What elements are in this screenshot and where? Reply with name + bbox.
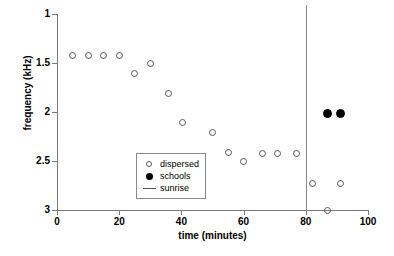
x-tick-label: 40	[176, 217, 187, 227]
y-tick-label: 2.5	[36, 156, 50, 166]
y-tick-label: 1	[44, 9, 50, 19]
x-tick-label: 80	[300, 217, 311, 227]
line-glyph	[143, 188, 156, 189]
y-tick	[52, 14, 57, 15]
y-axis-title: frequency (kHz)	[23, 23, 33, 163]
data-point-dispersed	[69, 52, 76, 59]
x-tick-label: 60	[238, 217, 249, 227]
x-tick-label: 20	[114, 217, 125, 227]
data-point-dispersed	[116, 52, 123, 59]
legend-label: schools	[157, 172, 191, 181]
data-point-dispersed	[179, 119, 186, 126]
data-point-dispersed	[225, 149, 232, 156]
y-tick-label: 2	[44, 107, 50, 117]
data-point-dispersed	[209, 129, 216, 136]
data-point-dispersed	[274, 150, 281, 157]
x-tick	[119, 210, 120, 215]
data-point-dispersed	[100, 52, 107, 59]
x-tick-label: 0	[54, 217, 60, 227]
legend-label: dispersed	[157, 160, 199, 169]
data-point-dispersed	[337, 180, 344, 187]
x-tick	[181, 210, 182, 215]
legend-item-schools: schools	[141, 170, 199, 182]
scatter-chart-figure: 11.522.53 020406080100 dispersedschoolss…	[0, 0, 394, 256]
x-axis-title: time (minutes)	[57, 231, 368, 241]
y-tick-label: 3	[44, 205, 50, 215]
open-circle-glyph	[146, 161, 152, 167]
y-axis-line	[57, 14, 58, 210]
filled-circle-icon	[141, 173, 157, 180]
data-point-dispersed	[324, 207, 331, 214]
legend-label: sunrise	[157, 184, 189, 193]
data-point-dispersed	[259, 150, 266, 157]
x-axis-line	[57, 210, 368, 211]
y-tick-label: 1.5	[36, 58, 50, 68]
y-tick	[52, 63, 57, 64]
data-point-schools	[323, 109, 332, 118]
data-point-dispersed	[309, 180, 316, 187]
legend-item-sunrise: sunrise	[141, 182, 199, 194]
plot-area: 11.522.53 020406080100 dispersedschoolss…	[57, 14, 368, 210]
data-point-dispersed	[240, 158, 247, 165]
x-tick	[368, 210, 369, 215]
data-point-dispersed	[131, 70, 138, 77]
x-tick-label: 100	[360, 217, 377, 227]
open-circle-icon	[141, 161, 157, 167]
data-point-dispersed	[293, 150, 300, 157]
y-tick	[52, 161, 57, 162]
sunrise-reference-line	[306, 5, 307, 211]
data-point-dispersed	[85, 52, 92, 59]
x-tick	[57, 210, 58, 215]
chart-legend: dispersedschoolssunrise	[136, 153, 206, 199]
x-tick	[244, 210, 245, 215]
data-point-dispersed	[147, 60, 154, 67]
y-tick	[52, 112, 57, 113]
filled-circle-glyph	[146, 173, 153, 180]
data-point-schools	[336, 109, 345, 118]
data-point-dispersed	[165, 90, 172, 97]
legend-item-dispersed: dispersed	[141, 158, 199, 170]
line-icon	[141, 188, 157, 189]
